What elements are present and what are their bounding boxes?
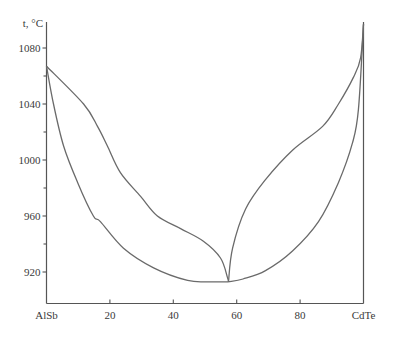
y-ticks: 920960100010401080	[19, 42, 47, 278]
y-axis-title: t, °C	[23, 17, 43, 29]
x-ticks: AlSb20406080CdTe	[35, 300, 375, 321]
y-tick-label: 920	[24, 266, 41, 278]
solidus-left-curve	[47, 66, 229, 282]
x-axis: AlSb20406080CdTe	[35, 22, 375, 321]
x-tick-label: AlSb	[35, 309, 58, 321]
y-tick-label: 1040	[19, 98, 42, 110]
x-tick-label: 60	[231, 309, 243, 321]
y-tick-label: 960	[24, 210, 41, 222]
y-tick-label: 1080	[19, 42, 42, 54]
phase-curves	[47, 24, 364, 282]
solidus-right-curve	[229, 24, 364, 282]
x-tick-label: 80	[295, 309, 307, 321]
phase-diagram-chart: t, °C 920960100010401080 AlSb20406080CdT…	[0, 0, 394, 337]
x-tick-label: 20	[104, 309, 116, 321]
y-tick-label: 1000	[19, 154, 42, 166]
liquidus-right-curve	[229, 24, 364, 282]
x-tick-label: 40	[168, 309, 180, 321]
y-axis: t, °C 920960100010401080	[19, 17, 47, 304]
x-tick-label: CdTe	[352, 309, 376, 321]
